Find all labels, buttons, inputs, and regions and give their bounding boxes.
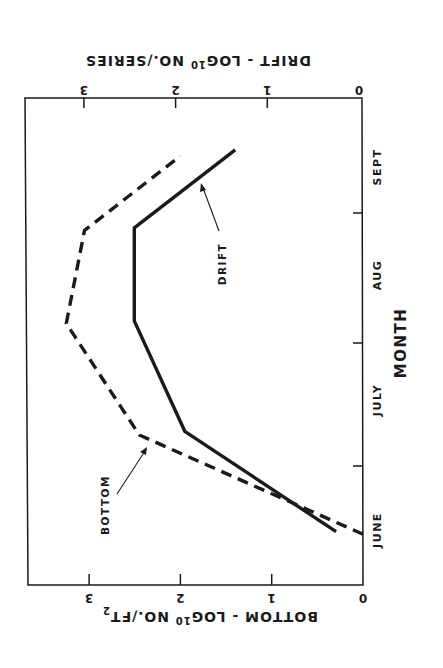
drift-series-line bbox=[134, 150, 336, 532]
drift-axis-title: DRIFT - LOG10 NO./SERIES bbox=[85, 53, 311, 70]
month-axis-title: MONTH bbox=[392, 308, 410, 379]
bottom-axis-tick-label: 1 bbox=[268, 591, 276, 605]
drift-axis-tick-label: 2 bbox=[171, 83, 179, 97]
drift-arrow-head-icon bbox=[200, 183, 206, 192]
bottom-axis-tick-label: 0 bbox=[359, 591, 367, 605]
month-label-july: JULY bbox=[371, 384, 384, 417]
drift-series-label: DRIFT bbox=[216, 243, 228, 286]
drift-axis-tick-label: 1 bbox=[263, 83, 271, 97]
bottom-axis-tick-label: 3 bbox=[85, 591, 93, 605]
bottom-axis-tick-label: 2 bbox=[176, 591, 184, 605]
drift-label-arrow bbox=[203, 188, 219, 231]
drift-axis-tick-label: 3 bbox=[80, 83, 88, 97]
drift-axis-tick-label: 0 bbox=[355, 83, 363, 97]
bottom-axis-title: BOTTOM - LOG10 NO./FT2 bbox=[102, 605, 318, 626]
bottom-series-label: BOTTOM bbox=[99, 475, 111, 535]
month-axis-ticks: JUNEJULYAUGSEPT bbox=[353, 148, 384, 548]
drift-axis-ticks: 0123 bbox=[80, 83, 363, 108]
month-label-june: JUNE bbox=[371, 512, 384, 549]
rotated-line-chart: 0123 0123 JUNEJULYAUGSEPT DRIFT - LOG10 … bbox=[0, 0, 443, 668]
month-label-sept: SEPT bbox=[371, 148, 384, 185]
bottom-axis-ticks: 0123 bbox=[85, 574, 367, 605]
bottom-label-arrow bbox=[117, 451, 145, 494]
month-label-aug: AUG bbox=[371, 260, 384, 291]
